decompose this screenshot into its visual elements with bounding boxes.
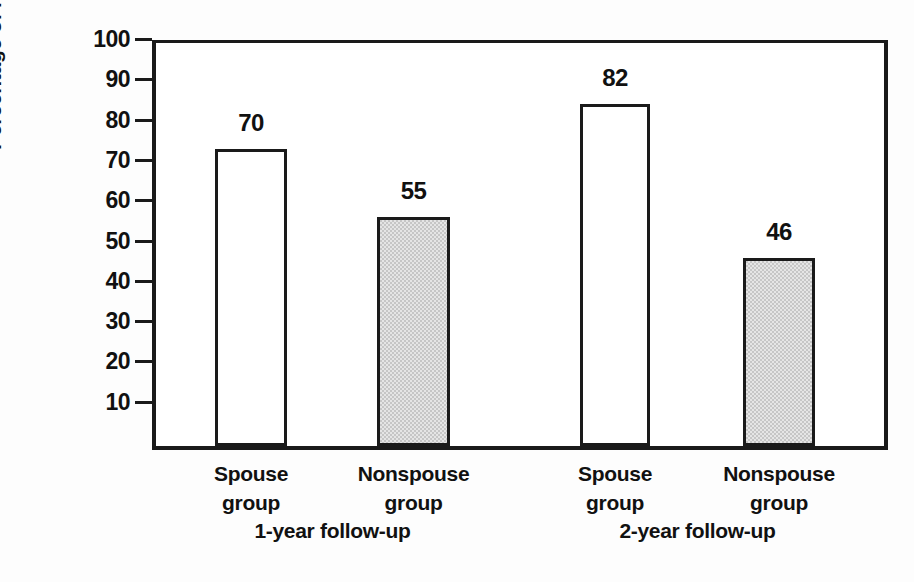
y-axis-tick-mark	[135, 159, 152, 162]
bar	[215, 149, 287, 446]
y-axis-tick-label: 90	[70, 66, 130, 93]
bar-value-label: 82	[560, 64, 670, 92]
y-axis-tick-mark	[135, 38, 152, 41]
x-axis-category-label: Spousegroup	[520, 459, 710, 517]
y-axis-tick-label: 60	[70, 187, 130, 214]
x-axis-group-label: 1-year follow-up	[183, 519, 483, 543]
x-axis-category-line1: Nonspouse	[319, 459, 509, 488]
y-axis-tick-mark	[135, 199, 152, 202]
bar	[743, 258, 815, 446]
y-axis-tick-mark	[135, 320, 152, 323]
bar-value-label: 55	[357, 177, 470, 205]
chart-figure: Percentage of responders 102030405060708…	[0, 0, 914, 582]
y-axis-tick-mark	[135, 78, 152, 81]
y-axis-tick-mark	[135, 280, 152, 283]
x-axis-category-line1: Nonspouse	[684, 459, 874, 488]
y-axis-tick-mark	[135, 401, 152, 404]
x-axis-category-label: Nonspousegroup	[319, 459, 509, 517]
bar	[580, 104, 650, 446]
bar-value-label: 46	[723, 218, 835, 246]
x-axis-group-label: 2-year follow-up	[548, 519, 848, 543]
bar	[377, 217, 450, 446]
y-axis-tick-label: 50	[70, 228, 130, 255]
y-axis-tick-label: 40	[70, 268, 130, 295]
x-axis-category-line2: group	[319, 488, 509, 517]
x-axis-category-line1: Spouse	[520, 459, 710, 488]
x-axis-category-label: Spousegroup	[156, 459, 346, 517]
x-axis-category-line2: group	[156, 488, 346, 517]
y-axis-tick-label: 70	[70, 147, 130, 174]
y-axis-tick-mark	[135, 360, 152, 363]
y-axis-tick-mark	[135, 240, 152, 243]
y-axis-tick-label: 100	[70, 26, 130, 53]
x-axis-category-label: Nonspousegroup	[684, 459, 874, 517]
x-axis-category-line1: Spouse	[156, 459, 346, 488]
bar-value-label: 70	[195, 109, 307, 137]
y-axis-tick-label: 10	[70, 389, 130, 416]
y-axis-tick-label: 20	[70, 348, 130, 375]
x-axis-category-line2: group	[520, 488, 710, 517]
y-axis-tick-label: 80	[70, 107, 130, 134]
y-axis-title: Percentage of responders	[0, 0, 6, 150]
x-axis-category-line2: group	[684, 488, 874, 517]
y-axis-tick-label: 30	[70, 308, 130, 335]
y-axis-tick-mark	[135, 119, 152, 122]
